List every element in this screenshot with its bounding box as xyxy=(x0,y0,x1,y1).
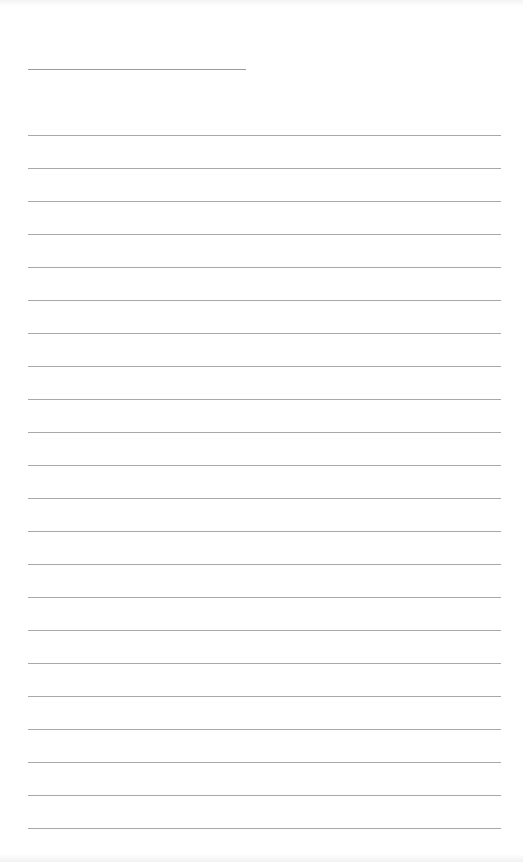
ruled-line xyxy=(28,762,501,795)
ruled-line xyxy=(28,498,501,531)
ruled-writing-area xyxy=(28,135,501,829)
ruled-line xyxy=(28,201,501,234)
ruled-line xyxy=(28,564,501,597)
ruled-line xyxy=(28,333,501,366)
ruled-line xyxy=(28,399,501,432)
ruled-line xyxy=(28,531,501,564)
ruled-line xyxy=(28,432,501,465)
ruled-line xyxy=(28,795,501,828)
title-field-line xyxy=(28,69,246,70)
ruled-line xyxy=(28,663,501,696)
ruled-line xyxy=(28,168,501,201)
ruled-line xyxy=(28,366,501,399)
ruled-line xyxy=(28,597,501,630)
ruled-line xyxy=(28,465,501,498)
ruled-line xyxy=(28,234,501,267)
ruled-line xyxy=(28,696,501,729)
ruled-line xyxy=(28,828,501,829)
ruled-line xyxy=(28,267,501,300)
page-bottom-edge xyxy=(0,854,523,862)
ruled-line xyxy=(28,729,501,762)
ruled-line xyxy=(28,300,501,333)
page-top-edge xyxy=(0,0,523,6)
ruled-line xyxy=(28,135,501,168)
ruled-line xyxy=(28,630,501,663)
